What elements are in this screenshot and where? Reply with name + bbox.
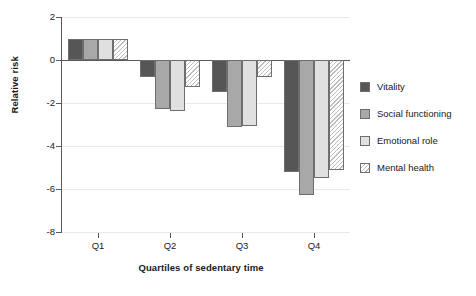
bar-q2-series-0: [140, 60, 155, 77]
bar-q4-series-0: [284, 60, 299, 172]
x-tick-mark: [314, 233, 315, 238]
y-tick-mark: [56, 103, 61, 104]
bar-q4-series-3: [329, 60, 344, 170]
legend-swatch-icon: [360, 136, 370, 146]
legend-item-vitality[interactable]: Vitality: [360, 80, 476, 93]
bar-q1-series-0: [68, 39, 83, 61]
legend-swatch-icon: [360, 82, 370, 92]
bar-q3-series-3: [257, 60, 272, 77]
bar-q3-series-1: [227, 60, 242, 127]
legend-item-mental-health[interactable]: Mental health: [360, 161, 476, 174]
x-tick-label: Q3: [222, 240, 262, 251]
chart-legend: VitalitySocial functioningEmotional role…: [360, 80, 476, 188]
bar-q2-series-2: [170, 60, 185, 111]
y-tick-label: -2: [29, 97, 55, 108]
bar-q4-series-2: [314, 60, 329, 178]
y-tick-mark: [56, 232, 61, 233]
x-tick-mark: [170, 233, 171, 238]
gridline: [62, 232, 350, 233]
y-axis-title: Relative risk: [9, 90, 20, 114]
y-tick-mark: [56, 17, 61, 18]
bar-q3-series-0: [212, 60, 227, 92]
y-tick-label: 0: [29, 54, 55, 65]
y-tick-mark: [56, 146, 61, 147]
bar-q2-series-3: [185, 60, 200, 87]
bar-q1-series-3: [113, 39, 128, 61]
relative-risk-bar-chart: Relative risk Quartiles of sedentary tim…: [0, 0, 476, 296]
legend-item-label: Mental health: [377, 162, 434, 173]
legend-item-social-functioning[interactable]: Social functioning: [360, 107, 476, 120]
bar-q1-series-2: [98, 39, 113, 61]
legend-item-label: Social functioning: [377, 108, 451, 119]
y-tick-label: 2: [29, 11, 55, 22]
x-tick-mark: [242, 233, 243, 238]
bar-q3-series-2: [242, 60, 257, 126]
y-tick-mark: [56, 60, 61, 61]
x-tick-label: Q2: [150, 240, 190, 251]
x-tick-label: Q1: [78, 240, 118, 251]
x-tick-label: Q4: [294, 240, 334, 251]
x-tick-mark: [98, 233, 99, 238]
bar-q4-series-1: [299, 60, 314, 195]
y-tick-label: -4: [29, 140, 55, 151]
y-tick-mark: [56, 189, 61, 190]
y-tick-label: -6: [29, 183, 55, 194]
bar-q1-series-1: [83, 39, 98, 61]
legend-item-label: Emotional role: [377, 135, 438, 146]
legend-item-emotional-role[interactable]: Emotional role: [360, 134, 476, 147]
y-tick-label: -8: [29, 226, 55, 237]
legend-item-label: Vitality: [377, 81, 405, 92]
legend-swatch-icon: [360, 163, 370, 173]
x-axis-title: Quartiles of sedentary time: [46, 262, 356, 273]
plot-area: [62, 17, 350, 232]
legend-swatch-icon: [360, 109, 370, 119]
bar-q2-series-1: [155, 60, 170, 109]
gridline: [62, 17, 350, 18]
